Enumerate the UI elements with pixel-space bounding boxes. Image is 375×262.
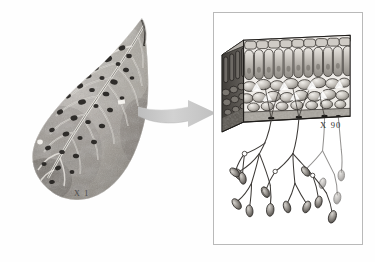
leaf-photograph (22, 12, 152, 207)
left-magnification-label: X 1 (74, 189, 89, 198)
figure-canvas: X 1 (0, 0, 375, 262)
right-magnification-label: X 90 (320, 120, 342, 130)
magnification-arrow (138, 96, 218, 132)
